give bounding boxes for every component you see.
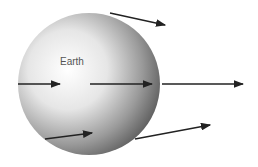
diagram-canvas [0, 0, 258, 167]
arrow-5 [135, 125, 210, 139]
earth-diagram: Earth [0, 0, 258, 167]
earth-label: Earth [60, 56, 84, 67]
